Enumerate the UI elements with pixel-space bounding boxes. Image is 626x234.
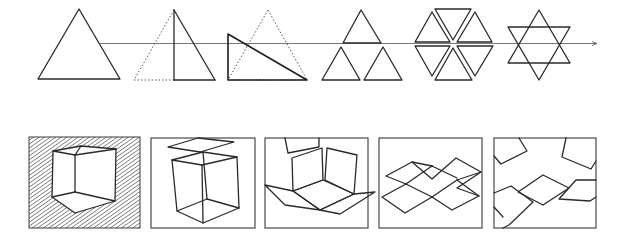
cube-hatched-panel <box>29 137 140 228</box>
cube-lid-lifted-panel <box>151 138 255 228</box>
cube-net-panel <box>379 138 482 228</box>
hexagon-six-triangles-shape <box>415 9 493 80</box>
three-triangles-shape <box>322 10 402 80</box>
figure-canvas: Hand-drawn sketches showing geometric de… <box>0 0 626 234</box>
bottom-row <box>29 137 596 228</box>
hexagram-shape <box>508 10 570 80</box>
squares-scattered-panel <box>494 138 596 228</box>
cube-opening-panel <box>265 138 375 228</box>
illustration <box>0 0 626 234</box>
triangle-shape <box>38 9 120 79</box>
right-triangle-shape <box>228 10 307 80</box>
triangle-bisected-shape <box>134 10 215 80</box>
top-row <box>38 9 597 80</box>
